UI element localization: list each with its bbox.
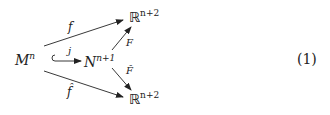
diagram-arrows [0, 0, 330, 115]
label-f-hat: f̂ [67, 86, 71, 98]
arrow-f-hat [44, 71, 123, 97]
equation-number: (1) [297, 52, 317, 66]
node-N: Nn+1 [84, 54, 115, 69]
label-f: f [68, 21, 72, 33]
label-F: F [126, 38, 133, 48]
node-R-top: ℝn+2 [129, 9, 159, 24]
label-j: j [68, 46, 71, 56]
arrow-f [44, 20, 123, 46]
node-R-bottom: ℝn+2 [129, 91, 159, 106]
arrow-j-hook [52, 55, 81, 61]
label-F-hat: F̂ [126, 66, 133, 76]
node-M: Mn [15, 52, 35, 67]
